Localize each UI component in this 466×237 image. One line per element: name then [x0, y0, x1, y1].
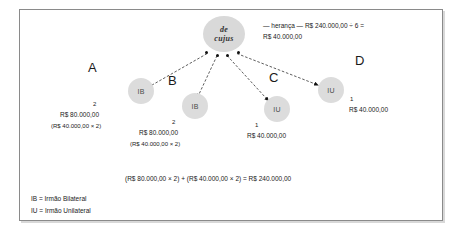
heir-a-quota: 2	[93, 101, 96, 107]
heir-letter-d: D	[355, 53, 364, 68]
node-heir-d-type: IU	[327, 87, 335, 94]
heir-b-amount: R$ 80.000,00	[139, 128, 178, 138]
legend: IB = Irmão Bilateral IU = Irmão Unilater…	[31, 193, 91, 217]
heranca-line2: R$ 40.000,00	[263, 31, 364, 42]
heir-b-quota: 2	[172, 119, 175, 125]
heranca-note: — herança — R$ 240.000,00 ÷ 6 = R$ 40.00…	[263, 20, 364, 43]
node-heir-c-type: IU	[273, 106, 281, 113]
diagram-canvas: de cujus — herança — R$ 240.000,00 ÷ 6 =…	[20, 10, 442, 220]
node-heir-d[interactable]: IU	[318, 77, 344, 103]
connector-dot-4	[237, 51, 240, 54]
heir-d-quota: 1	[350, 96, 353, 102]
edge-root-to-b	[197, 56, 217, 99]
node-de-cujus[interactable]: de cujus	[203, 16, 245, 52]
legend-line-iu: IU = Irmão Unilateral	[31, 205, 91, 217]
de-cujus-label-line1: de	[220, 25, 228, 34]
heir-letter-b: B	[168, 73, 177, 88]
heir-c-quota: 1	[255, 122, 258, 128]
edge-root-to-a	[146, 54, 207, 89]
heir-c-amount: R$ 40.000,00	[247, 131, 286, 141]
de-cujus-label-line2: cujus	[214, 34, 233, 43]
node-heir-b-type: IB	[191, 103, 198, 110]
edge-root-to-c	[227, 56, 269, 102]
heir-letter-a: A	[88, 60, 97, 75]
total-equation: (R$ 80.000,00 × 2) + (R$ 40.000,00 × 2) …	[125, 175, 291, 182]
node-heir-b[interactable]: IB	[182, 93, 208, 119]
heir-a-calc: (R$ 40.000,00 × 2)	[51, 122, 101, 131]
heir-b-calc: (R$ 40.000,00 × 2)	[130, 140, 180, 149]
connector-dot-3	[226, 54, 229, 57]
node-heir-a[interactable]: IB	[128, 78, 154, 104]
node-heir-c[interactable]: IU	[264, 96, 290, 122]
legend-line-ib: IB = Irmão Bilateral	[31, 193, 91, 205]
diagram-frame: de cujus — herança — R$ 240.000,00 ÷ 6 =…	[19, 9, 443, 221]
heranca-line1: — herança — R$ 240.000,00 ÷ 6 =	[263, 20, 364, 31]
node-heir-a-type: IB	[137, 88, 144, 95]
heir-letter-c: C	[269, 70, 278, 85]
heir-d-amount: R$ 40.000,00	[349, 105, 388, 115]
connector-dot-2	[216, 54, 219, 57]
connector-dot-1	[205, 51, 208, 54]
heir-a-amount: R$ 80.000,00	[60, 110, 99, 120]
